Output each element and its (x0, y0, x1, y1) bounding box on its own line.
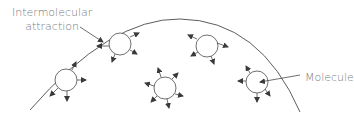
attraction-label-line1: Intermolecular (12, 6, 92, 20)
molecule-right (238, 66, 270, 102)
molecule-top-left (97, 33, 139, 62)
molecule-left (50, 62, 86, 101)
attraction-label-line2: attraction (12, 20, 92, 34)
molecule-center (145, 68, 183, 108)
molecule-label: Molecule (305, 71, 354, 85)
intermolecular-attraction-label: Intermolecular attraction (12, 6, 92, 34)
molecule-top-right (188, 35, 228, 64)
